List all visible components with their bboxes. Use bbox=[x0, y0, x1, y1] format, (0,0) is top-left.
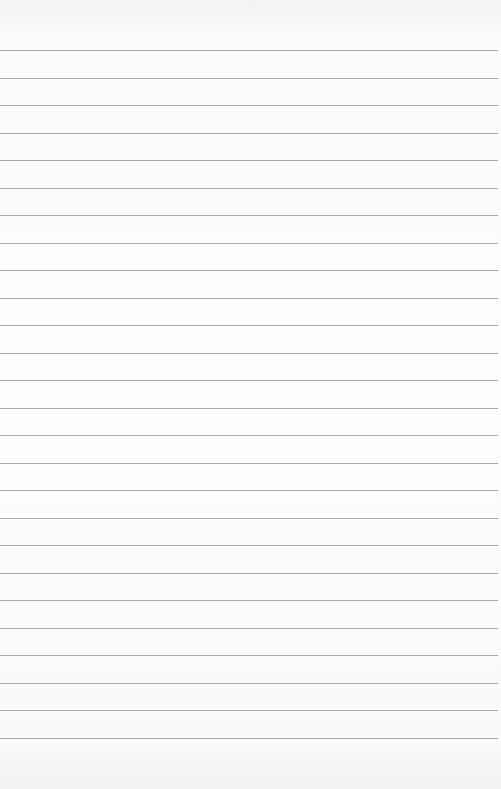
ruled-line bbox=[0, 270, 498, 271]
ruled-line bbox=[0, 325, 498, 326]
ruled-line bbox=[0, 545, 498, 546]
ruled-line bbox=[0, 628, 498, 629]
ruled-line bbox=[0, 50, 498, 51]
ruled-line bbox=[0, 655, 498, 656]
ruled-line bbox=[0, 105, 498, 106]
ruled-line bbox=[0, 408, 498, 409]
ruled-line bbox=[0, 78, 498, 79]
ruled-line bbox=[0, 573, 498, 574]
ruled-line bbox=[0, 243, 498, 244]
ruled-line bbox=[0, 215, 498, 216]
lined-paper bbox=[0, 0, 501, 789]
ruled-line bbox=[0, 380, 498, 381]
ruled-line bbox=[0, 463, 498, 464]
ruled-line bbox=[0, 518, 498, 519]
ruled-line bbox=[0, 683, 498, 684]
ruled-line bbox=[0, 188, 498, 189]
ruled-line bbox=[0, 298, 498, 299]
ruled-line bbox=[0, 490, 498, 491]
ruled-line bbox=[0, 160, 498, 161]
ruled-line bbox=[0, 600, 498, 601]
ruled-line bbox=[0, 353, 498, 354]
ruled-line bbox=[0, 435, 498, 436]
ruled-line bbox=[0, 738, 498, 739]
ruled-line bbox=[0, 710, 498, 711]
ruled-line bbox=[0, 133, 498, 134]
